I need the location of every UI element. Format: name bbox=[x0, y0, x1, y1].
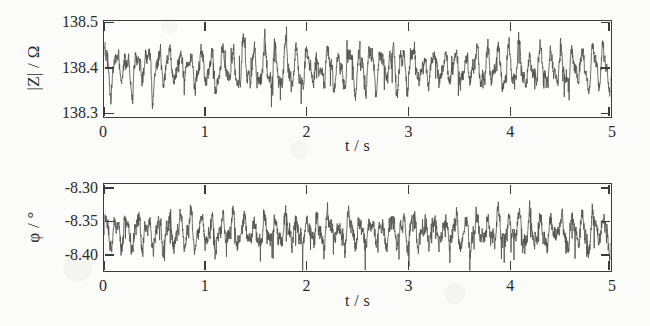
x-axis-tick bbox=[608, 261, 610, 270]
x-tick-label: 4 bbox=[490, 278, 530, 294]
y-tick-label: -8.35 bbox=[40, 213, 98, 229]
y-axis-tick bbox=[105, 221, 114, 223]
x-axis-tick bbox=[306, 261, 308, 270]
x-axis-tick bbox=[510, 185, 512, 194]
y-axis-tick bbox=[105, 254, 114, 256]
y-axis-tick bbox=[601, 221, 610, 223]
y-tick-label: -8.30 bbox=[40, 180, 98, 196]
x-axis-tick bbox=[204, 185, 206, 194]
x-axis-tick bbox=[510, 261, 512, 270]
x-axis-tick bbox=[204, 261, 206, 270]
x-axis-tick bbox=[608, 185, 610, 194]
data-line bbox=[103, 201, 612, 272]
y-tick-label: -8.40 bbox=[40, 247, 98, 263]
x-axis-label-bottom: t / s bbox=[318, 292, 398, 310]
x-tick-label: 5 bbox=[592, 278, 632, 294]
y-axis-tick bbox=[601, 254, 610, 256]
y-axis-tick bbox=[105, 187, 114, 189]
x-axis-tick bbox=[306, 185, 308, 194]
x-axis-tick bbox=[408, 261, 410, 270]
x-axis-tick bbox=[408, 185, 410, 194]
x-tick-label: 1 bbox=[185, 278, 225, 294]
x-axis-tick bbox=[104, 261, 106, 270]
x-axis-tick bbox=[104, 185, 106, 194]
x-tick-label: 0 bbox=[83, 278, 123, 294]
